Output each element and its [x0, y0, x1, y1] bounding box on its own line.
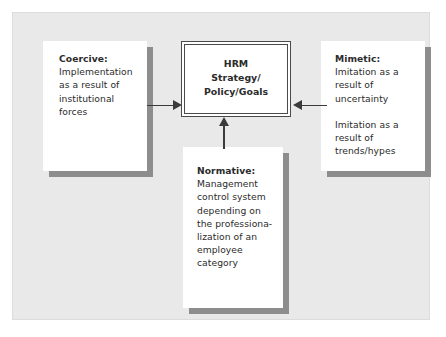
mimetic-paragraph-gap	[335, 105, 425, 118]
mimetic-to-hrm-arrow-head-icon	[293, 100, 302, 110]
coercive-box-body: Coercive:Implementation as a result of i…	[43, 41, 147, 118]
normative-body: Management control system depending on t…	[197, 178, 272, 268]
normative-box-body: Normative:Management control system depe…	[183, 147, 283, 270]
mimetic-body: Imitation as a result of uncertainty	[335, 66, 399, 103]
diagram-figure: Coercive:Implementation as a result of i…	[0, 0, 446, 337]
coercive-heading: Coercive:	[59, 53, 108, 64]
coercive-to-hrm-arrow-line	[147, 105, 174, 106]
diagram-frame: Coercive:Implementation as a result of i…	[12, 12, 430, 320]
normative-box: Normative:Management control system depe…	[183, 147, 283, 308]
mimetic-box-body: Mimetic:Imitation as a result of uncerta…	[321, 41, 425, 157]
hrm-strategy-inner-border: HRM Strategy/ Policy/Goals	[184, 44, 288, 114]
mimetic-box: Mimetic:Imitation as a result of uncerta…	[321, 41, 425, 171]
coercive-body: Implementation as a result of institutio…	[59, 66, 133, 117]
mimetic-text: Mimetic:Imitation as a result of uncerta…	[335, 52, 425, 157]
coercive-box: Coercive:Implementation as a result of i…	[43, 41, 147, 171]
mimetic-to-hrm-arrow-line	[301, 105, 327, 106]
mimetic-body-2: Imitation as a result of trends/hypes	[335, 119, 399, 156]
hrm-strategy-box: HRM Strategy/ Policy/Goals	[181, 41, 291, 117]
normative-text: Normative:Management control system depe…	[197, 164, 283, 270]
hrm-strategy-label: HRM Strategy/ Policy/Goals	[185, 57, 287, 99]
coercive-to-hrm-arrow-head-icon	[173, 100, 182, 110]
normative-heading: Normative:	[197, 165, 255, 176]
normative-to-hrm-arrow-head-icon	[219, 117, 229, 126]
normative-to-hrm-arrow-line	[223, 125, 225, 149]
coercive-text: Coercive:Implementation as a result of i…	[59, 52, 147, 118]
mimetic-heading: Mimetic:	[335, 53, 380, 64]
